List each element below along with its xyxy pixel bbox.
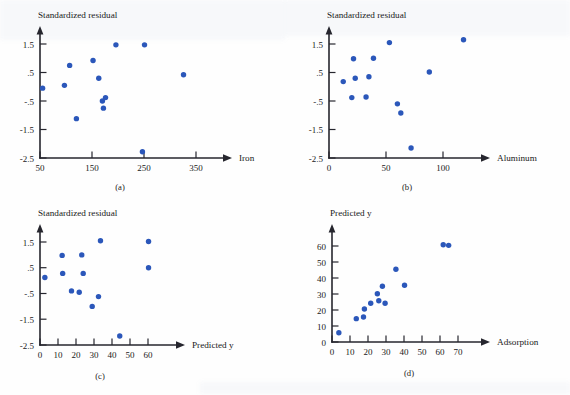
- x-tick-label-d-6: 60: [436, 347, 446, 357]
- x-tick-label-d-0: 0: [330, 347, 335, 357]
- data-point: [368, 301, 373, 306]
- axes-c: [37, 224, 185, 349]
- data-point: [40, 85, 45, 90]
- y-axis-arrow-a: [37, 26, 44, 35]
- x-tick-label-c-2: 20: [72, 350, 82, 360]
- data-point: [77, 290, 82, 295]
- data-point: [98, 238, 103, 243]
- y-tick-label-a-3: .5: [27, 68, 34, 78]
- y-axis-title-c: Standardized residual: [38, 208, 118, 218]
- data-point: [96, 76, 101, 81]
- data-point: [74, 116, 79, 121]
- y-tick-label-d-4: 40: [317, 274, 327, 284]
- data-point: [59, 253, 64, 258]
- y-tick-label-b-1: -1.5: [309, 125, 324, 135]
- data-point: [336, 330, 341, 335]
- y-tick-label-b-4: 1.5: [312, 40, 324, 50]
- data-point: [402, 283, 407, 288]
- y-tick-label-d-5: 50: [317, 258, 327, 268]
- x-axis-title-c: Predicted y: [192, 340, 234, 350]
- y-tick-label-a-1: -1.5: [20, 125, 35, 135]
- x-axis-title-b: Aluminum: [497, 153, 537, 163]
- x-tick-label-b-2: 100: [436, 163, 450, 173]
- x-axis-arrow-b: [481, 154, 490, 162]
- y-tick-label-a-0: -2.5: [20, 154, 35, 164]
- y-ticks-b: [329, 44, 336, 158]
- axes-b: [326, 26, 490, 162]
- data-point: [387, 40, 392, 45]
- data-points-a: [40, 42, 186, 154]
- panel-caption-c: (c): [95, 371, 105, 381]
- x-axis-arrow-d: [481, 338, 490, 346]
- data-point: [146, 239, 151, 244]
- y-axis-arrow-b: [326, 26, 333, 35]
- x-tick-label-c-0: 0: [38, 350, 43, 360]
- data-point: [446, 243, 451, 248]
- plot-svg-b: Standardized residual Aluminum 1.5 .5 -.…: [285, 0, 570, 197]
- x-tick-label-a-2: 250: [137, 163, 151, 173]
- figure-page: Standardized residual Iron 1.5 .5 -.5 -1…: [0, 0, 570, 395]
- y-axis-title-b: Standardized residual: [327, 10, 407, 20]
- panel-caption-a: (a): [115, 182, 125, 192]
- x-tick-label-d-5: 50: [418, 347, 428, 357]
- x-axis-arrow-a: [223, 154, 232, 162]
- data-point: [113, 42, 118, 47]
- x-tick-label-d-3: 30: [382, 347, 392, 357]
- data-point: [60, 271, 65, 276]
- panel-caption-b: (b): [402, 182, 412, 192]
- y-tick-label-c-0: -2.5: [20, 341, 35, 351]
- data-point: [79, 252, 84, 257]
- y-tick-label-a-2: -.5: [24, 97, 34, 107]
- data-point: [362, 306, 367, 311]
- y-tick-label-d-1: 10: [317, 322, 327, 332]
- data-points-c: [42, 238, 151, 339]
- data-point: [427, 69, 432, 74]
- x-ticks-d: [332, 336, 458, 343]
- data-point: [90, 304, 95, 309]
- x-tick-label-d-2: 20: [364, 347, 374, 357]
- y-tick-label-a-4: 1.5: [23, 40, 35, 50]
- data-point: [461, 37, 466, 42]
- data-point: [101, 105, 106, 110]
- panel-caption-d: (d): [404, 368, 414, 378]
- data-point: [371, 56, 376, 61]
- axes-a: [37, 26, 232, 162]
- data-point: [382, 301, 387, 306]
- scatter-panel-d: Predicted y Adsorption 60 50 40 30 20 10…: [285, 197, 570, 394]
- data-point: [103, 95, 108, 100]
- data-point: [441, 242, 446, 247]
- data-point: [67, 63, 72, 68]
- y-tick-label-b-2: -.5: [313, 97, 323, 107]
- data-point: [142, 42, 147, 47]
- x-tick-label-c-5: 50: [126, 350, 136, 360]
- data-point: [349, 95, 354, 100]
- x-axis-title-d: Adsorption: [497, 337, 539, 347]
- y-tick-label-d-0: 0: [322, 338, 327, 348]
- y-ticks-a: [40, 44, 47, 158]
- data-point: [341, 79, 346, 84]
- y-tick-label-c-4: 1.5: [23, 238, 35, 248]
- x-ticks-a: [40, 152, 196, 159]
- data-point: [117, 333, 122, 338]
- y-tick-label-c-1: -1.5: [20, 315, 35, 325]
- x-axis-title-a: Iron: [239, 153, 255, 163]
- data-point: [393, 267, 398, 272]
- plot-svg-c: Standardized residual Predicted y 1.5 .5…: [0, 197, 285, 394]
- x-tick-label-c-6: 60: [144, 350, 154, 360]
- y-tick-label-c-3: .5: [27, 263, 34, 273]
- y-ticks-c: [40, 242, 47, 345]
- data-point: [380, 284, 385, 289]
- x-ticks-c: [40, 339, 148, 346]
- data-point: [62, 83, 67, 88]
- y-tick-label-d-6: 60: [317, 242, 327, 252]
- data-point: [81, 271, 86, 276]
- y-axis-title-a: Standardized residual: [38, 10, 118, 20]
- data-point: [395, 101, 400, 106]
- x-tick-label-b-1: 50: [382, 163, 392, 173]
- y-tick-label-d-3: 30: [317, 290, 327, 300]
- x-tick-label-b-0: 0: [327, 163, 332, 173]
- data-point: [42, 275, 47, 280]
- x-tick-label-c-3: 30: [90, 350, 100, 360]
- data-points-b: [341, 37, 467, 151]
- y-tick-label-c-2: -.5: [24, 289, 34, 299]
